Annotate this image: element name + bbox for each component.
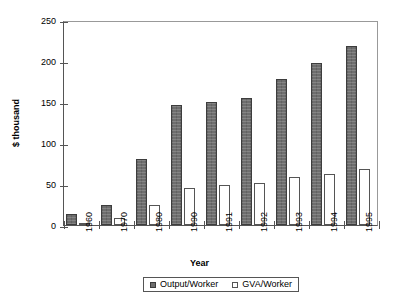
x-axis-tick-mark bbox=[309, 221, 310, 229]
plot-area: 050100150200250 bbox=[63, 21, 378, 226]
bar-group bbox=[309, 22, 344, 225]
chart-legend: Output/Worker GVA/Worker bbox=[143, 277, 299, 292]
x-axis-title: Year bbox=[190, 258, 209, 268]
legend-label-output-worker: Output/Worker bbox=[160, 280, 218, 289]
x-axis-tick-mark bbox=[379, 221, 380, 229]
bar-output-worker bbox=[101, 205, 112, 225]
bar-output-worker bbox=[346, 46, 357, 225]
bar-group bbox=[344, 22, 379, 225]
y-axis-tick-label: 150 bbox=[18, 99, 56, 108]
bar-group bbox=[134, 22, 169, 225]
x-axis-tick-label: 1980 bbox=[155, 212, 164, 232]
x-axis-tick-label: 1994 bbox=[330, 212, 339, 232]
bar-group bbox=[64, 22, 99, 225]
bar-group bbox=[99, 22, 134, 225]
x-axis-tick-mark bbox=[239, 221, 240, 229]
x-axis-tick-label: 1990 bbox=[190, 212, 199, 232]
y-axis-tick-label: 100 bbox=[18, 140, 56, 149]
x-axis-tick-mark bbox=[64, 221, 65, 229]
bar-output-worker bbox=[66, 214, 77, 225]
x-axis-tick-mark bbox=[169, 221, 170, 229]
x-axis-tick-label: 1993 bbox=[295, 212, 304, 232]
bar-group bbox=[274, 22, 309, 225]
x-axis-tick-mark bbox=[204, 221, 205, 229]
y-axis-title: $ thousand bbox=[11, 78, 21, 168]
y-axis-tick-label: 200 bbox=[18, 58, 56, 67]
x-axis-tick-mark bbox=[134, 221, 135, 229]
bar-chart: $ thousand 050100150200250 1960197019801… bbox=[0, 0, 400, 304]
bar-group bbox=[204, 22, 239, 225]
legend-label-gva-worker: GVA/Worker bbox=[242, 280, 292, 289]
x-axis-tick-mark bbox=[344, 221, 345, 229]
bar-output-worker bbox=[276, 79, 287, 225]
bar-output-worker bbox=[311, 63, 322, 225]
x-axis-tick-label: 1995 bbox=[365, 212, 374, 232]
x-axis-tick-mark bbox=[274, 221, 275, 229]
y-axis-tick-label: 50 bbox=[18, 181, 56, 190]
y-axis-tick-label: 0 bbox=[18, 222, 56, 231]
legend-swatch-icon-output-worker bbox=[150, 282, 156, 288]
x-axis-tick-mark bbox=[99, 221, 100, 229]
x-axis-tick-label: 1992 bbox=[260, 212, 269, 232]
legend-item-output-worker: Output/Worker bbox=[150, 280, 218, 289]
x-axis-tick-label: 1960 bbox=[85, 212, 94, 232]
x-axis-tick-label: 1991 bbox=[225, 212, 234, 232]
bar-output-worker bbox=[206, 102, 217, 225]
legend-swatch-icon-gva-worker bbox=[232, 282, 238, 288]
bar-output-worker bbox=[241, 98, 252, 225]
bar-group bbox=[169, 22, 204, 225]
bar-group bbox=[239, 22, 274, 225]
y-axis-tick-label: 250 bbox=[18, 17, 56, 26]
legend-item-gva-worker: GVA/Worker bbox=[232, 280, 292, 289]
bar-output-worker bbox=[171, 105, 182, 225]
bar-series-container bbox=[64, 22, 377, 225]
x-axis-tick-label: 1970 bbox=[120, 212, 129, 232]
bar-output-worker bbox=[136, 159, 147, 225]
